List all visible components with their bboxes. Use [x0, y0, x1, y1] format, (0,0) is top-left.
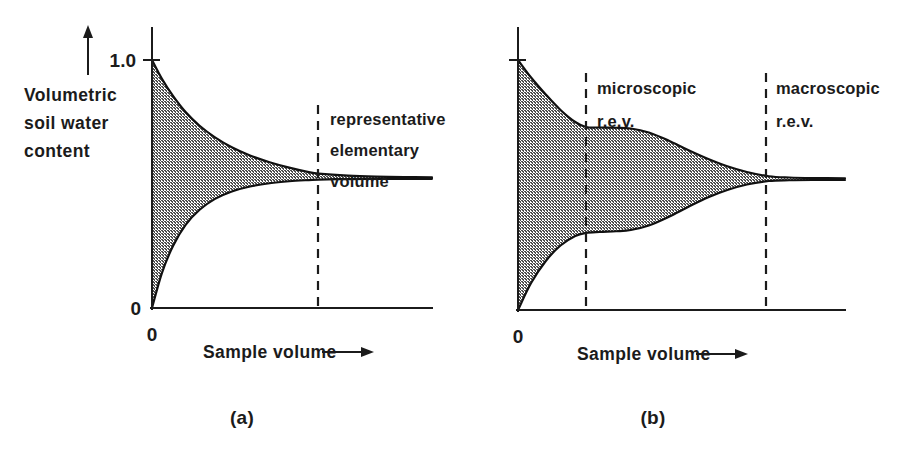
- right-arrow-icon: [361, 347, 374, 357]
- panel-b: 0 Sample volume microscopic r.e.v. macro…: [509, 28, 880, 428]
- up-arrow-icon: [83, 25, 93, 38]
- panel-b-caption: (b): [640, 407, 665, 428]
- panel-b-macroscopic-annotation: macroscopic r.e.v.: [776, 79, 880, 130]
- panel-b-microscopic-annotation-line-1: microscopic: [597, 79, 696, 97]
- panel-b-x-origin-label: 0: [513, 326, 524, 347]
- panel-b-shaded-region: [518, 60, 845, 310]
- panel-a-y-axis-label-line-1: Volumetric: [24, 85, 117, 105]
- panel-a-envelope: [152, 60, 432, 308]
- panel-a-y-tick-zero-label: 0: [130, 298, 141, 319]
- panel-b-macroscopic-annotation-line-2: r.e.v.: [776, 112, 814, 130]
- panel-b-x-axis-label: Sample volume: [577, 344, 711, 364]
- panel-a-y-tick-top-label: 1.0: [110, 50, 136, 71]
- panel-a-y-axis-label-group: Volumetric soil water content: [24, 25, 117, 161]
- panel-a-y-axis-label-line-3: content: [24, 141, 90, 161]
- panel-a-x-axis-label: Sample volume: [203, 342, 337, 362]
- right-arrow-icon: [735, 349, 748, 359]
- panel-a-rev-annotation-line-2: elementary: [330, 141, 420, 159]
- panel-b-macroscopic-annotation-line-1: macroscopic: [776, 79, 880, 97]
- figure-root: 1.0 0 0 Volumetric soil water content Sa…: [0, 0, 899, 455]
- panel-a-x-axis-label-group: Sample volume: [203, 342, 374, 362]
- figure-canvas: 1.0 0 0 Volumetric soil water content Sa…: [0, 0, 899, 455]
- panel-a-rev-annotation-line-3: volume: [330, 172, 389, 190]
- panel-a-x-origin-label: 0: [147, 324, 158, 345]
- panel-b-envelope: [518, 60, 845, 310]
- panel-a-shaded-region: [152, 60, 432, 308]
- panel-b-x-axis-label-group: Sample volume: [577, 344, 748, 364]
- panel-b-microscopic-annotation-line-2: r.e.v.: [597, 112, 635, 130]
- panel-a: 1.0 0 0 Volumetric soil water content Sa…: [24, 25, 446, 428]
- panel-a-rev-annotation-line-1: representative: [330, 110, 446, 128]
- panel-b-microscopic-annotation: microscopic r.e.v.: [597, 79, 696, 130]
- panel-a-caption: (a): [230, 407, 254, 428]
- panel-a-y-axis-label-line-2: soil water: [24, 113, 109, 133]
